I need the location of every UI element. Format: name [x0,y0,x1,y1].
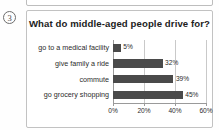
bar-value-label: 39% [176,75,189,83]
category-label: give family a ride [55,59,109,68]
x-tick-label: 40% [168,107,181,114]
x-tick-label: 0% [108,107,118,114]
category-label: go grocery shopping [44,90,109,99]
bar-value-label: 32% [165,59,178,67]
x-tick [113,103,114,106]
bar-value-label: 45% [185,91,198,99]
bar [113,44,121,52]
plot-area: go to a medical facility5%give family a … [113,40,206,103]
bar [113,59,163,67]
chart-card: What do middle-aged people drive for? go… [26,10,213,128]
chart-page: 3 What do middle-aged people drive for? … [0,0,219,130]
x-tick [206,103,207,106]
gridline-60% [206,40,207,103]
x-tick-label: 60% [199,107,212,114]
category-label: commute [79,75,109,84]
previous-item-box-partial [26,0,213,6]
chart-title: What do middle-aged people drive for? [27,18,212,29]
bar-row: commute39% [113,72,206,88]
bar-value-label: 5% [123,43,133,51]
category-label: go to a medical facility [38,43,109,52]
x-tick [144,103,145,106]
x-axis-line [113,103,206,104]
x-tick [175,103,176,106]
bar-row: go to a medical facility5% [113,40,206,56]
item-number-badge: 3 [3,11,16,24]
bar [113,75,173,83]
x-tick-label: 20% [137,107,150,114]
bar-row: go grocery shopping45% [113,87,206,103]
bar [113,91,183,99]
bar-row: give family a ride32% [113,56,206,72]
